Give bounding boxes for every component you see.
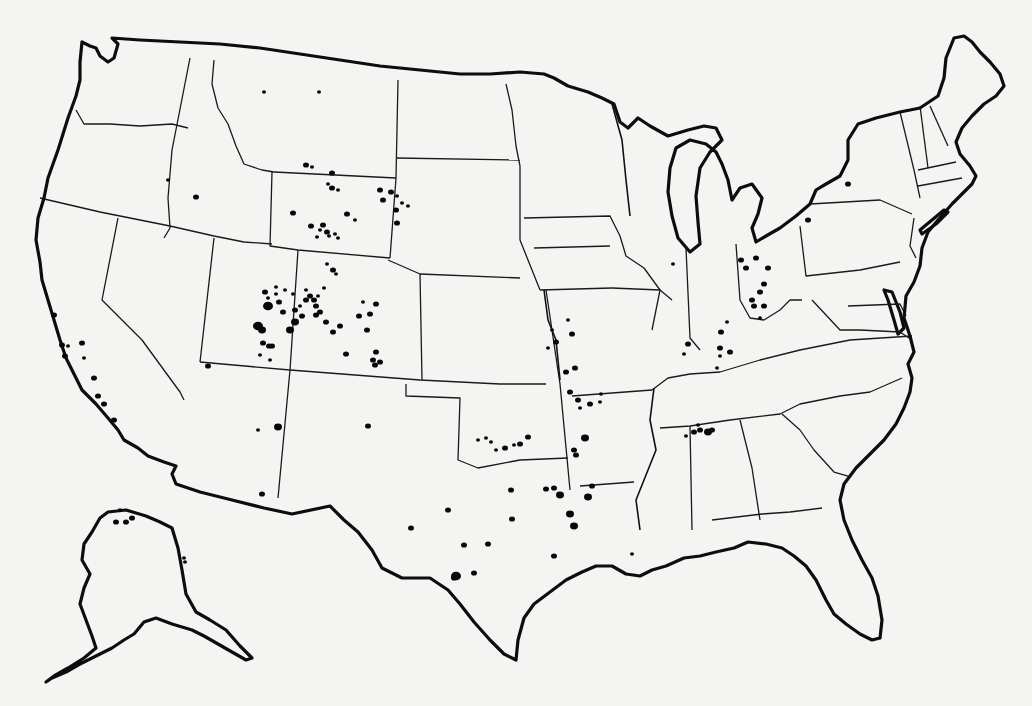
location-dot bbox=[290, 210, 296, 215]
location-dot bbox=[709, 427, 715, 432]
location-dot bbox=[274, 424, 282, 431]
location-dot bbox=[471, 570, 477, 575]
location-dot bbox=[697, 427, 703, 432]
location-dot bbox=[727, 349, 733, 354]
location-dot bbox=[546, 346, 550, 349]
state-border bbox=[388, 260, 520, 278]
state-border bbox=[652, 336, 912, 390]
location-dot bbox=[95, 393, 101, 398]
location-dot bbox=[684, 434, 688, 437]
state-border bbox=[102, 218, 184, 400]
location-dot bbox=[263, 302, 273, 311]
location-dot bbox=[318, 228, 322, 231]
location-dot bbox=[274, 292, 278, 295]
location-dot bbox=[566, 511, 574, 518]
location-dot bbox=[291, 292, 295, 295]
location-dot bbox=[280, 309, 286, 314]
location-dot bbox=[563, 369, 569, 374]
state-border bbox=[278, 250, 298, 498]
state-border bbox=[580, 482, 634, 486]
state-border bbox=[76, 110, 188, 128]
location-dot bbox=[311, 297, 317, 302]
location-dot bbox=[571, 447, 577, 452]
state-border bbox=[572, 390, 652, 396]
state-border bbox=[910, 218, 916, 258]
location-dot bbox=[551, 485, 557, 490]
location-dot bbox=[738, 257, 744, 262]
location-dot bbox=[845, 181, 851, 186]
location-dot bbox=[364, 327, 370, 332]
location-dot bbox=[315, 235, 319, 238]
state-border bbox=[40, 198, 272, 244]
location-dot bbox=[578, 406, 582, 409]
location-dot bbox=[337, 323, 343, 328]
location-dot bbox=[325, 262, 329, 265]
location-dot bbox=[551, 553, 557, 558]
location-dot bbox=[269, 343, 275, 348]
location-dot bbox=[258, 327, 266, 334]
location-dot bbox=[589, 483, 595, 488]
location-dot bbox=[573, 452, 579, 457]
location-dot bbox=[336, 236, 340, 239]
location-dot bbox=[308, 223, 314, 228]
state-border bbox=[918, 178, 962, 186]
location-dot bbox=[262, 289, 268, 294]
location-dot bbox=[445, 507, 451, 512]
location-dot bbox=[303, 297, 309, 302]
location-dot bbox=[304, 288, 308, 291]
location-dot bbox=[333, 232, 337, 235]
location-dot bbox=[307, 293, 313, 298]
location-dot bbox=[550, 328, 554, 331]
location-dot bbox=[512, 443, 516, 446]
location-dot bbox=[761, 281, 767, 286]
location-dot bbox=[598, 400, 602, 403]
location-dot bbox=[377, 187, 383, 192]
state-border bbox=[736, 244, 802, 320]
location-dot bbox=[313, 303, 319, 308]
location-dot bbox=[336, 188, 340, 191]
location-dot bbox=[671, 262, 675, 265]
state-border bbox=[540, 288, 612, 290]
location-dot bbox=[394, 220, 400, 225]
location-dot bbox=[682, 352, 686, 355]
location-dot bbox=[373, 301, 379, 306]
location-dot bbox=[581, 435, 589, 442]
state-border bbox=[686, 248, 700, 350]
location-dot bbox=[718, 329, 724, 334]
location-dot bbox=[256, 428, 260, 431]
location-dot bbox=[310, 165, 314, 168]
location-dot bbox=[91, 375, 97, 380]
location-dot bbox=[587, 401, 593, 406]
river-borders-layer bbox=[544, 104, 656, 530]
location-dot bbox=[395, 194, 399, 197]
location-dot bbox=[509, 516, 515, 521]
state-border bbox=[524, 216, 660, 330]
location-dot bbox=[400, 201, 404, 204]
alaska-inset bbox=[46, 510, 252, 682]
location-dot bbox=[805, 217, 811, 222]
location-dot bbox=[508, 487, 514, 492]
location-dot bbox=[372, 362, 378, 367]
location-dot bbox=[461, 542, 467, 547]
location-dot bbox=[556, 492, 564, 499]
location-dot bbox=[82, 356, 86, 359]
state-border bbox=[420, 274, 422, 380]
location-dot bbox=[323, 319, 329, 324]
state-border bbox=[918, 162, 956, 170]
location-dot bbox=[79, 340, 85, 345]
location-dot bbox=[327, 234, 331, 237]
location-dot bbox=[329, 170, 335, 175]
location-dot bbox=[334, 272, 338, 275]
location-dot bbox=[476, 438, 480, 441]
location-dot bbox=[353, 218, 357, 221]
location-dot bbox=[572, 365, 578, 370]
location-dot bbox=[575, 397, 581, 402]
state-border bbox=[660, 378, 902, 428]
location-dot bbox=[62, 353, 68, 358]
location-dot bbox=[489, 440, 493, 443]
state-border bbox=[810, 200, 912, 214]
location-dot bbox=[303, 162, 309, 167]
location-dot bbox=[361, 300, 365, 303]
location-dot bbox=[317, 90, 321, 93]
location-dot bbox=[743, 265, 749, 270]
